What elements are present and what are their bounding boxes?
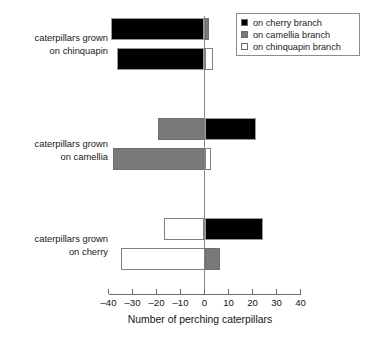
bar-camellia-bar-2 <box>0 148 366 170</box>
x-tick--10 <box>180 289 181 294</box>
legend-label-cherry: on cherry branch <box>253 18 322 28</box>
x-tick-label-10: 10 <box>216 298 242 308</box>
x-tick--20 <box>156 289 157 294</box>
legend-item-cherry: on cherry branch <box>241 17 355 28</box>
legend-label-camellia: on camellia branch <box>253 30 330 40</box>
legend-swatch-chinquapin-icon <box>241 43 248 50</box>
bar-segment-camellia-bar-1-cherry <box>205 118 257 140</box>
bar-segment-camellia-bar-2-camellia <box>113 148 204 170</box>
legend: on cherry branch on camellia branch on c… <box>236 13 360 56</box>
bar-segment-cherry-bar-2-chinquapin <box>121 248 205 270</box>
x-tick-label-40: 40 <box>288 298 314 308</box>
x-tick-30 <box>276 289 277 294</box>
x-axis-line <box>109 294 301 295</box>
bar-cherry-bar-1 <box>0 218 366 240</box>
bar-segment-camellia-bar-1-camellia <box>158 118 205 140</box>
bar-segment-chinquapin-bar-2-cherry <box>117 48 205 70</box>
x-tick-label--40: –40 <box>96 298 122 308</box>
bar-segment-cherry-bar-1-cherry <box>205 218 264 240</box>
legend-swatch-cherry-icon <box>241 19 248 26</box>
bar-chart: caterpillars grown on chinquapin caterpi… <box>0 0 366 338</box>
x-tick-label--20: –20 <box>144 298 170 308</box>
x-tick-40 <box>300 289 301 294</box>
x-tick--30 <box>132 289 133 294</box>
x-tick-label--10: –10 <box>168 298 194 308</box>
bar-cherry-bar-2 <box>0 248 366 270</box>
x-axis-title: Number of perching caterpillars <box>90 314 310 325</box>
bar-segment-chinquapin-bar-1-camellia <box>205 18 210 40</box>
bar-segment-chinquapin-bar-2-chinquapin <box>205 48 213 70</box>
bar-segment-camellia-bar-2-chinquapin <box>205 148 211 170</box>
bar-segment-cherry-bar-1-chinquapin <box>164 218 205 240</box>
x-tick-label-20: 20 <box>240 298 266 308</box>
legend-swatch-camellia-icon <box>241 31 248 38</box>
x-tick-10 <box>228 289 229 294</box>
legend-item-camellia: on camellia branch <box>241 29 355 40</box>
bar-camellia-bar-1 <box>0 118 366 140</box>
legend-item-chinquapin: on chinquapin branch <box>241 41 355 52</box>
x-tick-label-0: 0 <box>192 298 218 308</box>
x-tick-20 <box>252 289 253 294</box>
bar-segment-cherry-bar-2-camellia <box>205 248 221 270</box>
x-tick-0 <box>204 289 205 294</box>
x-tick-label--30: –30 <box>120 298 146 308</box>
bar-segment-chinquapin-bar-1-cherry <box>111 18 205 40</box>
legend-label-chinquapin: on chinquapin branch <box>253 42 341 52</box>
x-tick-label-30: 30 <box>264 298 290 308</box>
x-tick--40 <box>108 289 109 294</box>
